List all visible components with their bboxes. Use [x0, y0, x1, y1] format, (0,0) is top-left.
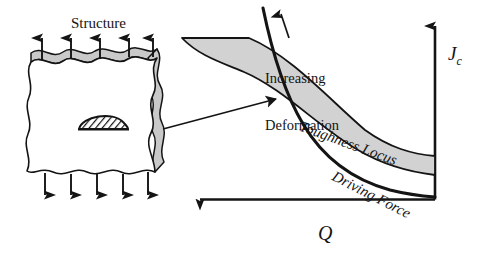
fracture-mechanics-figure: Structure Increasing Deformation Toughne…: [0, 0, 478, 264]
structure-label: Structure: [71, 15, 126, 31]
structure-to-band-pointer: [163, 99, 276, 129]
increasing-deformation-line-1: Increasing: [265, 71, 339, 87]
figure-canvas: [0, 0, 478, 264]
jc-axis-subscript: c: [456, 54, 461, 68]
structure-block: [26, 48, 164, 174]
q-axis-label: Q: [318, 223, 332, 245]
increasing-deformation-label: Increasing Deformation: [265, 40, 339, 165]
structure-body: [26, 57, 157, 174]
increasing-deformation-arrow: [281, 14, 289, 38]
jc-axis-label: Jc: [448, 44, 462, 68]
bottom-load-arrows: [45, 172, 148, 195]
